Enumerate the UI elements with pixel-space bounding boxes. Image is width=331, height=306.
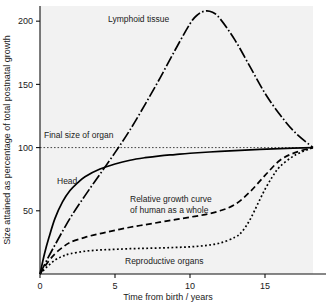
x-axis-title: Time from birth / years [123, 292, 213, 302]
svg-text:150: 150 [18, 80, 33, 90]
svg-text:100: 100 [18, 143, 33, 153]
x-axis-tick-labels: 051015 [37, 281, 270, 291]
y-axis-tick-marks [36, 21, 40, 211]
y-axis-title: Size attained as percentage of total pos… [2, 35, 12, 245]
y-axis-tick-labels: 50100150200 [18, 16, 33, 216]
chart-svg: 50100150200 051015 Time from birth / yea… [0, 0, 331, 306]
annotation-relative-growth-curve-line2: of human as a whole [130, 205, 209, 215]
svg-text:10: 10 [185, 281, 195, 291]
annotation-final-size-of-organ: Final size of organ [44, 130, 114, 140]
svg-text:5: 5 [112, 281, 117, 291]
annotation-head: Head [57, 176, 78, 186]
svg-text:50: 50 [23, 206, 33, 216]
annotation-relative-growth-curve-line1: Relative growth curve [130, 194, 212, 204]
svg-text:15: 15 [260, 281, 270, 291]
annotation-reproductive-organs: Reproductive organs [125, 256, 203, 266]
svg-text:200: 200 [18, 16, 33, 26]
annotation-lymphoid-tissue: Lymphoid tissue [108, 14, 169, 24]
x-axis-tick-marks [40, 274, 265, 278]
growth-curve-chart: 50100150200 051015 Time from birth / yea… [0, 0, 331, 306]
svg-text:0: 0 [37, 281, 42, 291]
